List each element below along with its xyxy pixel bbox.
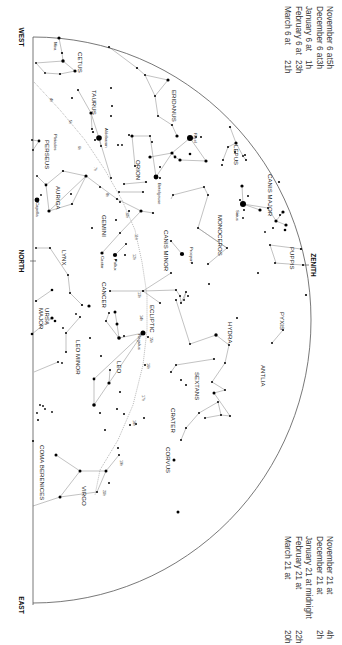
star-icon bbox=[175, 364, 177, 366]
star-icon bbox=[217, 401, 219, 403]
constellation-label: CANIS MINOR bbox=[163, 230, 169, 272]
star-icon bbox=[175, 134, 178, 137]
star-icon bbox=[236, 317, 238, 319]
time-date: January 6 at bbox=[304, 6, 313, 52]
zenith-label: ZENITH bbox=[310, 253, 317, 277]
star-icon bbox=[242, 217, 244, 219]
ecliptic-hour-label: 4h bbox=[49, 98, 53, 102]
constellation-line bbox=[34, 362, 58, 372]
ecliptic-hour-label: 18h bbox=[132, 420, 136, 426]
star-icon bbox=[189, 343, 191, 345]
constellation-label: ORION bbox=[135, 160, 141, 180]
star-icon bbox=[79, 316, 81, 318]
star-icon bbox=[31, 139, 33, 141]
star-icon bbox=[119, 232, 121, 234]
star-icon bbox=[121, 144, 123, 146]
star-icon bbox=[220, 414, 222, 416]
constellation-line bbox=[143, 290, 176, 291]
constellation-line bbox=[242, 186, 286, 225]
ecliptic-hour-label: 20h bbox=[102, 490, 106, 496]
star-icon bbox=[180, 439, 182, 441]
star-icon bbox=[108, 312, 110, 314]
star-icon bbox=[71, 97, 73, 99]
star-icon bbox=[274, 219, 277, 222]
star-icon bbox=[36, 175, 38, 177]
star-icon bbox=[129, 424, 131, 426]
constellation-labels: CETUSTAURUSERIDANUSPERSEUSORIONLEPUSAURI… bbox=[38, 52, 295, 506]
constellation-line bbox=[150, 153, 172, 157]
constellation-line bbox=[132, 136, 135, 166]
star-icon bbox=[67, 274, 69, 276]
time-date: November 6 at bbox=[325, 6, 334, 60]
observation-times-bottom: November 21 at4hDecember 21 at2hJanuary … bbox=[283, 536, 334, 644]
star-icon bbox=[175, 289, 177, 291]
ecliptic-hour-label: 10h bbox=[125, 212, 129, 218]
constellation-label: SEXTANS bbox=[194, 372, 200, 400]
star-icon bbox=[203, 186, 205, 188]
constellation-label: CETUS bbox=[77, 52, 83, 73]
constellation-line bbox=[46, 171, 86, 185]
star-icon bbox=[305, 294, 307, 296]
star-icon bbox=[170, 272, 172, 274]
constellation-label: ECLIPTIC bbox=[149, 305, 155, 333]
constellation-label: GEMINI bbox=[101, 215, 107, 237]
star-icon bbox=[213, 392, 216, 395]
constellation-label: AURIGA bbox=[55, 186, 61, 210]
star-icon bbox=[128, 134, 130, 136]
star-icon bbox=[107, 381, 110, 384]
star-name-label: Aldebaran bbox=[104, 128, 109, 148]
star-icon bbox=[222, 159, 224, 161]
star-icon bbox=[228, 344, 230, 346]
star-icon bbox=[59, 496, 62, 499]
star-icon bbox=[172, 194, 174, 196]
ecliptic-hour-label: 19h bbox=[119, 460, 123, 466]
ecliptic-hour-label: 12h bbox=[132, 254, 136, 260]
star-icon bbox=[274, 262, 276, 264]
star-icon bbox=[284, 223, 287, 226]
constellation-line bbox=[36, 61, 63, 63]
star-icon bbox=[45, 184, 48, 187]
star-icon bbox=[44, 72, 46, 74]
star-icon bbox=[59, 73, 61, 75]
star-icon bbox=[51, 411, 53, 413]
star-icon bbox=[279, 214, 281, 216]
star-icon bbox=[93, 378, 96, 381]
star-icon bbox=[61, 52, 63, 54]
constellation-line bbox=[171, 359, 214, 372]
star-icon bbox=[130, 134, 133, 137]
star-icon bbox=[39, 404, 41, 406]
time-hour: 20h bbox=[283, 630, 292, 644]
time-row: January 21 at midnight bbox=[304, 536, 313, 620]
stars bbox=[31, 36, 307, 513]
star-icon bbox=[61, 59, 64, 62]
star-icon bbox=[92, 403, 96, 407]
star-icon bbox=[118, 191, 120, 193]
constellation-label: MONOCEROS bbox=[217, 215, 223, 256]
time-row: February 21 at22h bbox=[294, 536, 303, 644]
star-icon bbox=[224, 362, 226, 364]
star-icon bbox=[116, 198, 118, 200]
star-icon bbox=[271, 342, 273, 344]
star-icon bbox=[229, 415, 231, 417]
star-icon bbox=[154, 175, 159, 180]
constellation-line bbox=[115, 244, 126, 255]
time-date: November 21 at bbox=[325, 536, 334, 595]
ecliptic-hour-label: 7h bbox=[93, 167, 97, 171]
constellation-line bbox=[276, 212, 283, 221]
star-icon bbox=[100, 145, 102, 147]
star-name-label: Castor bbox=[100, 256, 105, 269]
time-date: March 21 at bbox=[283, 536, 292, 580]
constellation-label: PUPPIS bbox=[289, 247, 295, 270]
star-icon bbox=[81, 304, 83, 306]
star-icon bbox=[110, 177, 112, 179]
star-icon bbox=[94, 139, 96, 141]
star-name-label: Procyon bbox=[189, 247, 194, 263]
star-icon bbox=[173, 459, 176, 462]
star-icon bbox=[177, 511, 180, 514]
star-icon bbox=[257, 272, 259, 274]
star-icon bbox=[125, 243, 127, 245]
star-icon bbox=[108, 482, 110, 484]
star-name-label: Capella bbox=[35, 202, 40, 217]
constellation-label: PYXIS bbox=[279, 312, 285, 330]
time-date: January 21 at midnight bbox=[304, 536, 313, 620]
